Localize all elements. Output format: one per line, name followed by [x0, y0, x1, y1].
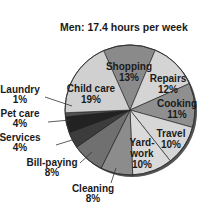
- slice-label-repairs: Repairs: [150, 73, 187, 84]
- slice-value-pet-care: 4%: [13, 118, 28, 129]
- slice-label-travel: Travel: [157, 128, 186, 139]
- slice-label-shopping: Shopping: [106, 61, 152, 72]
- slice-label-child-care: Child care: [67, 83, 116, 94]
- slice-label-cooking: 11%: [167, 109, 187, 120]
- leader-line-services: [56, 140, 72, 145]
- slice-value-cleaning: 8%: [86, 193, 101, 204]
- slice-label-cooking: Cooking: [157, 98, 197, 109]
- slice-label-travel: 10%: [161, 139, 181, 150]
- slice-value-services: 4%: [13, 142, 28, 153]
- slice-value-laundry: 1%: [13, 94, 28, 105]
- slice-label-yard-work: work: [129, 148, 154, 159]
- slice-label-yard-work: Yard-: [129, 137, 154, 148]
- slice-label-child-care: 19%: [81, 94, 101, 105]
- slice-value-bill-paying: 8%: [45, 167, 60, 178]
- slice-label-shopping: 13%: [119, 72, 139, 83]
- pie-chart: Shopping13%Repairs12%Cooking11%Travel10%…: [0, 0, 211, 216]
- slice-label-repairs: 12%: [158, 84, 178, 95]
- slice-label-yard-work: 10%: [132, 159, 152, 170]
